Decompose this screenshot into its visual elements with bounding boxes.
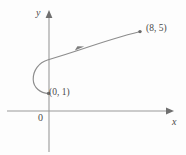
figure-canvas: y x 0 (0, 1) (8, 5) — [0, 0, 186, 155]
end-point-label: (8, 5) — [146, 24, 167, 34]
end-point-marker — [138, 30, 141, 33]
x-axis-label: x — [172, 117, 176, 127]
origin-label: 0 — [38, 113, 43, 123]
y-axis-label: y — [36, 8, 40, 18]
x-axis-arrowhead — [166, 108, 174, 115]
y-axis-arrowhead — [46, 10, 53, 18]
start-point-label: (0, 1) — [49, 88, 70, 98]
